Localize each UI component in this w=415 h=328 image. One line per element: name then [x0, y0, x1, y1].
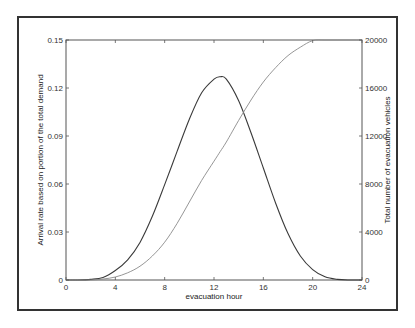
chart: 0481216202400.030.060.090.120.1504000800…	[0, 0, 415, 328]
y-axis-label-right: Total number of evacuation vehicles	[383, 96, 392, 223]
y-tick-label-right: 20000	[365, 36, 388, 45]
y-tick-label-left: 0.12	[47, 84, 63, 93]
x-tick-label: 12	[210, 283, 219, 292]
x-tick-label: 4	[113, 283, 118, 292]
arrival-rate-curve	[66, 76, 362, 280]
y-tick-label-left: 0	[59, 276, 64, 285]
cumulative-vehicles-curve	[66, 40, 362, 280]
x-tick-label: 16	[259, 283, 268, 292]
y-axis-label-left: Arrival rate based on portion of the tot…	[36, 74, 45, 245]
x-tick-label: 20	[308, 283, 317, 292]
axis-ticks: 0481216202400.030.060.090.120.1504000800…	[47, 36, 387, 292]
plot-border	[66, 40, 362, 280]
curves	[66, 40, 362, 280]
y-tick-label-right: 8000	[365, 180, 383, 189]
y-tick-label-right: 0	[365, 276, 370, 285]
y-tick-label-right: 16000	[365, 84, 388, 93]
y-tick-label-left: 0.06	[47, 180, 63, 189]
y-tick-label-left: 0.03	[47, 228, 63, 237]
y-tick-label-right: 4000	[365, 228, 383, 237]
x-axis-label: evacuation hour	[186, 292, 243, 301]
plot-area	[66, 40, 362, 280]
y-tick-label-left: 0.09	[47, 132, 63, 141]
x-tick-label: 8	[162, 283, 167, 292]
x-tick-label: 0	[64, 283, 69, 292]
y-tick-label-left: 0.15	[47, 36, 63, 45]
